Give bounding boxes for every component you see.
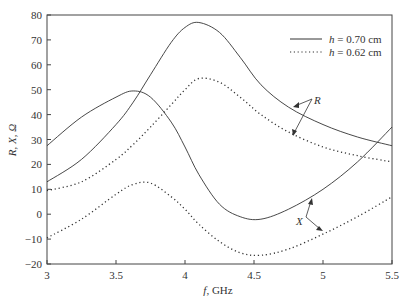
arrow-icon: [308, 198, 313, 205]
x-tick-label: 3: [44, 269, 50, 281]
x-axis-ticks: 33.544.555.5: [44, 260, 399, 281]
arrow-icon: [293, 102, 299, 108]
y-tick-label: 40: [31, 109, 43, 121]
curve-r-h062: [47, 78, 392, 190]
legend-entry-1: h = 0.70 cm: [329, 33, 382, 45]
y-tick-label: −10: [25, 233, 43, 245]
y-tick-label: 70: [31, 34, 43, 46]
y-axis-label: R, X, Ω: [6, 124, 18, 157]
chart: 80706050403020100−10−20 33.544.555.5 h =…: [0, 0, 406, 305]
x-axis-label: f, GHz: [203, 284, 232, 296]
x-annotation: X: [295, 198, 323, 231]
r-label: R: [313, 94, 321, 106]
y-tick-label: 60: [31, 59, 43, 71]
curve-x-h062: [47, 182, 392, 255]
arrow-icon: [292, 129, 297, 136]
y-tick-label: 80: [31, 9, 43, 21]
y-tick-label: 30: [31, 134, 43, 146]
y-tick-label: 10: [31, 183, 43, 195]
y-tick-label: 0: [37, 208, 43, 220]
x-tick-label: 4: [182, 269, 188, 281]
legend-entry-2: h = 0.62 cm: [329, 46, 382, 58]
y-tick-label: 50: [31, 84, 43, 96]
x-tick-label: 3.5: [109, 269, 123, 281]
y-tick-label: 20: [31, 158, 43, 170]
x-label: X: [295, 215, 304, 227]
x-tick-label: 5.5: [385, 269, 399, 281]
x-tick-label: 5: [320, 269, 326, 281]
x-tick-label: 4.5: [247, 269, 261, 281]
legend: h = 0.70 cm h = 0.62 cm: [290, 33, 382, 58]
curve-x-h070: [47, 91, 392, 220]
y-tick-label: −20: [25, 258, 43, 270]
r-annotation: R: [292, 94, 321, 136]
